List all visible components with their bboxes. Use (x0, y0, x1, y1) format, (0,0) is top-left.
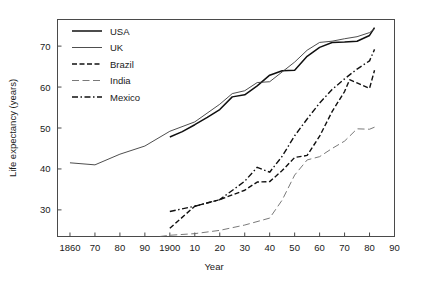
chart-background (0, 0, 423, 281)
life-expectancy-line-chart: 18607080901900102030405060708090 3040506… (0, 0, 423, 281)
y-tick-label: 40 (40, 163, 51, 174)
x-tick-label: 30 (239, 242, 250, 253)
y-axis-title: Life expectancy (years) (7, 79, 18, 177)
legend-label-brazil: Brazil (110, 59, 134, 70)
x-tick-label: 20 (214, 242, 225, 253)
x-tick-label: 80 (115, 242, 126, 253)
y-tick-label: 60 (40, 82, 51, 93)
x-axis-title: Year (204, 261, 223, 272)
legend-label-uk: UK (110, 42, 124, 53)
y-tick-label: 30 (40, 204, 51, 215)
x-tick-label: 1860 (59, 242, 80, 253)
x-tick-label: 10 (190, 242, 201, 253)
y-tick-label: 50 (40, 123, 51, 134)
x-tick-label: 1900 (159, 242, 180, 253)
x-tick-label: 60 (314, 242, 325, 253)
y-tick-label: 70 (40, 41, 51, 52)
x-tick-label: 70 (339, 242, 350, 253)
legend-label-usa: USA (110, 26, 130, 37)
x-tick-label: 50 (289, 242, 300, 253)
chart-container: 18607080901900102030405060708090 3040506… (0, 0, 423, 281)
x-tick-label: 90 (389, 242, 400, 253)
x-tick-label: 70 (90, 242, 101, 253)
x-tick-label: 40 (264, 242, 275, 253)
legend-label-mexico: Mexico (110, 92, 140, 103)
x-tick-label: 80 (364, 242, 375, 253)
legend-label-india: India (110, 75, 131, 86)
x-tick-label: 90 (140, 242, 151, 253)
